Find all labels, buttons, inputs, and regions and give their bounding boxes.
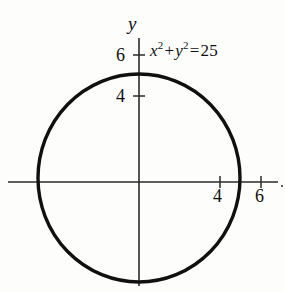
- equation-equals-operator: =: [189, 41, 201, 60]
- x-tick-label-4: 4: [213, 187, 222, 205]
- y-axis-label: y: [128, 14, 136, 33]
- x-axis-end-mark: [281, 185, 283, 187]
- equation-var-x: x: [150, 41, 158, 60]
- y-tick-label-6: 6: [116, 46, 125, 64]
- equation-constant: 25: [201, 41, 218, 60]
- x-tick-label-6: 6: [255, 187, 264, 205]
- figure-canvas: y 6 4 4 6 x2+y2=25: [0, 0, 285, 292]
- equation-var-y: y: [175, 41, 183, 60]
- coordinate-plane-plot: [0, 0, 285, 292]
- equation-annotation: x2+y2=25: [150, 42, 218, 59]
- equation-plus-operator: +: [163, 41, 175, 60]
- equation-exponent-y: 2: [183, 39, 189, 51]
- y-tick-label-4: 4: [116, 87, 125, 105]
